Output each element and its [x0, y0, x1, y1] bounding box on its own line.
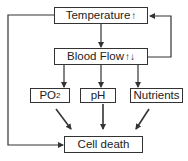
node-temperature: Temperature ↑	[54, 7, 148, 24]
node-blood-flow: Blood Flow ↑↓	[54, 48, 148, 65]
up-down-arrows-icon: ↑↓	[125, 52, 135, 62]
node-blood-flow-label: Blood Flow	[67, 51, 124, 63]
node-temperature-label: Temperature	[66, 10, 131, 22]
increase-arrow-icon: ↑	[131, 11, 136, 21]
node-nutrients: Nutrients	[130, 88, 183, 103]
node-po2: PO2	[30, 88, 70, 103]
node-po2-subscript: 2	[56, 92, 60, 100]
node-po2-label: PO	[39, 90, 56, 102]
node-ph: pH	[80, 88, 116, 103]
node-nutrients-label: Nutrients	[133, 90, 179, 102]
edge-po2-celldeath	[56, 109, 71, 129]
edge-bloodflow-temperature-feedback	[148, 16, 171, 57]
node-cell-death-label: Cell death	[78, 139, 130, 151]
edge-nutrients-celldeath	[136, 109, 149, 129]
edge-temperature-celldeath	[8, 15, 63, 145]
node-cell-death: Cell death	[64, 136, 143, 153]
node-ph-label: pH	[91, 90, 106, 102]
